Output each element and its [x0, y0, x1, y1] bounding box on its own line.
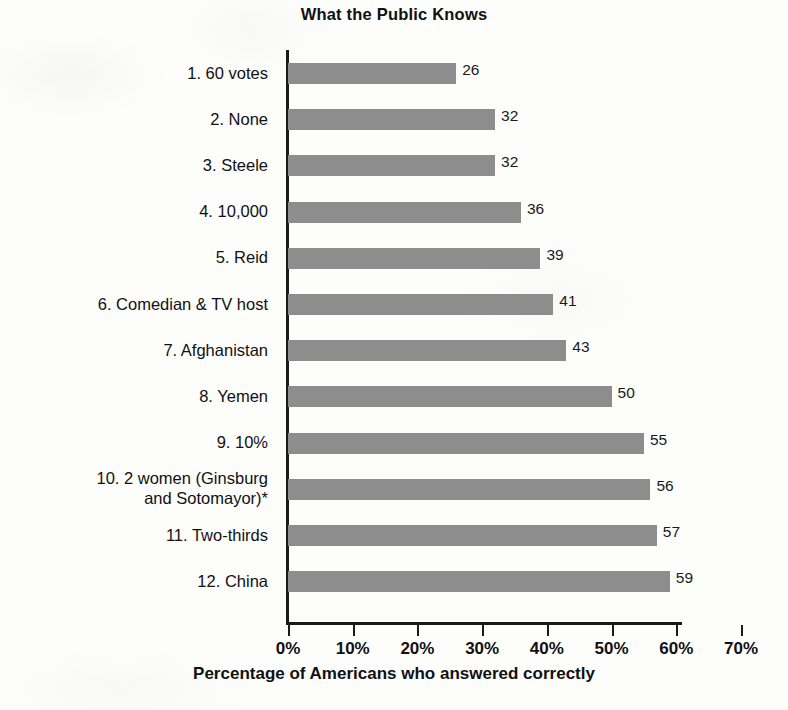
x-tick-40pct — [547, 625, 549, 636]
bar — [288, 109, 495, 130]
bar — [288, 294, 553, 315]
bar-value-label: 39 — [546, 246, 563, 264]
category-label: 3. Steele — [0, 155, 268, 175]
category-label: 10. 2 women (Ginsburg and Sotomayor)* — [0, 468, 268, 508]
x-tick-label: 40% — [512, 639, 582, 659]
x-tick-50pct — [612, 625, 614, 636]
bar-value-label: 43 — [572, 338, 589, 356]
category-label: 2. None — [0, 109, 268, 129]
x-tick-20pct — [417, 625, 419, 636]
category-label: 1. 60 votes — [0, 63, 268, 83]
bar-value-label: 36 — [527, 200, 544, 218]
x-tick-label: 10% — [318, 639, 388, 659]
category-label: 7. Afghanistan — [0, 340, 268, 360]
x-tick-label: 20% — [382, 639, 452, 659]
x-tick-70pct — [741, 625, 743, 636]
bar-value-label: 32 — [501, 153, 518, 171]
bar-value-label: 55 — [650, 431, 667, 449]
x-tick-label: 70% — [706, 639, 776, 659]
x-tick-label: 30% — [447, 639, 517, 659]
bar — [288, 479, 650, 500]
bar — [288, 433, 644, 454]
bar — [288, 155, 495, 176]
chart-page: What the Public Knows 0%10%20%30%40%50%6… — [0, 0, 788, 710]
bar — [288, 202, 521, 223]
category-label: 12. China — [0, 571, 268, 591]
bar — [288, 63, 456, 84]
x-tick-10pct — [353, 625, 355, 636]
x-tick-60pct — [676, 625, 678, 636]
category-label: 9. 10% — [0, 432, 268, 452]
x-tick-30pct — [482, 625, 484, 636]
x-tick-label: 50% — [577, 639, 647, 659]
bar-value-label: 56 — [656, 477, 673, 495]
bar-value-label: 41 — [559, 292, 576, 310]
bar — [288, 386, 612, 407]
bar-value-label: 59 — [676, 569, 693, 587]
category-label: 8. Yemen — [0, 386, 268, 406]
bar-value-label: 57 — [663, 523, 680, 541]
category-label: 4. 10,000 — [0, 201, 268, 221]
category-label: 5. Reid — [0, 247, 268, 267]
x-tick-0pct — [288, 625, 290, 636]
x-tick-label: 0% — [253, 639, 323, 659]
x-axis-title: Percentage of Americans who answered cor… — [0, 664, 788, 684]
bar-value-label: 50 — [618, 384, 635, 402]
bar — [288, 525, 657, 546]
bar-value-label: 26 — [462, 61, 479, 79]
bar — [288, 571, 670, 592]
category-label: 6. Comedian & TV host — [0, 294, 268, 314]
chart-title: What the Public Knows — [0, 5, 788, 24]
bar — [288, 340, 566, 361]
x-tick-label: 60% — [641, 639, 711, 659]
bar-value-label: 32 — [501, 107, 518, 125]
category-label: 11. Two-thirds — [0, 525, 268, 545]
bar — [288, 248, 540, 269]
plot-area: 0%10%20%30%40%50%60%70% 2632323639414350… — [288, 50, 741, 622]
